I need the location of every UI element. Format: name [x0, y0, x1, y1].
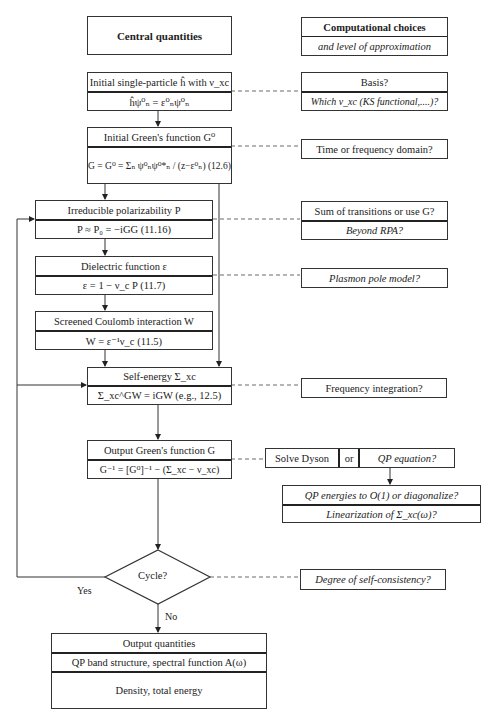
- frequency-integration-box: Frequency integration?: [301, 378, 447, 398]
- polarizability-equation: P ≈ P₀ = −iGG (11.16): [36, 221, 212, 238]
- polarizability-box: Irreducible polarizability P P ≈ P₀ = −i…: [35, 200, 213, 239]
- cycle-decision-label: Cycle?: [138, 570, 167, 581]
- central-quantities-label: Central quantities: [88, 17, 231, 54]
- yes-label: Yes: [77, 585, 92, 596]
- self-consistency-box: Degree of self-consistency?: [300, 569, 446, 590]
- time-frequency-box: Time or frequency domain?: [301, 139, 448, 159]
- or-label: or: [340, 449, 358, 467]
- solve-dyson-option: Solve Dyson: [266, 449, 338, 467]
- initial-greens-function-box: Initial Green's function G⁰ G = G⁰ = Σₙ …: [87, 127, 232, 184]
- self-energy-box: Self-energy Σ_xc Σ_xc^GW = iGW (e.g., 12…: [87, 367, 232, 405]
- screened-coulomb-box: Screened Coulomb interaction W W = ε⁻¹ν_…: [35, 311, 213, 350]
- output-greens-function-box: Output Green's function G G⁻¹ = [G⁰]⁻¹ −…: [87, 440, 232, 479]
- output-greens-equation: G⁻¹ = [G⁰]⁻¹ − (Σ_xc − ν_xc): [88, 461, 231, 478]
- band-structure-label: QP band structure, spectral function A(ω…: [52, 654, 266, 671]
- dielectric-function-box: Dielectric function ε ε = 1 − ν_c P (11.…: [35, 256, 213, 295]
- beyond-rpa-question: Beyond RPA?: [302, 222, 447, 239]
- self-energy-title: Self-energy Σ_xc: [88, 368, 231, 385]
- polarizability-title: Irreducible polarizability P: [36, 201, 212, 219]
- qp-energies-box: QP energies to O(1) or diagonalize? Line…: [282, 485, 481, 523]
- central-quantities-header: Central quantities: [87, 16, 232, 55]
- no-label: No: [165, 611, 177, 622]
- initial-greens-title: Initial Green's function G⁰: [88, 128, 231, 146]
- self-energy-equation: Σ_xc^GW = iGW (e.g., 12.5): [88, 387, 231, 404]
- dielectric-equation: ε = 1 − ν_c P (11.7): [36, 277, 212, 294]
- qp-equation-option: QP equation?: [360, 449, 454, 467]
- time-frequency-question: Time or frequency domain?: [302, 140, 447, 158]
- qp-energies-question: QP energies to O(1) or diagonalize?: [283, 486, 480, 504]
- plasmon-pole-box: Plasmon pole model?: [301, 268, 448, 288]
- approximation-level-label: and level of approximation: [302, 37, 447, 55]
- screened-coulomb-equation: W = ε⁻¹ν_c (11.5): [36, 332, 212, 349]
- output-quantities-box: Output quantities QP band structure, spe…: [51, 633, 267, 709]
- screened-coulomb-title: Screened Coulomb interaction W: [36, 312, 212, 330]
- output-quantities-title: Output quantities: [52, 634, 266, 652]
- computational-choices-label: Computational choices: [302, 18, 447, 36]
- self-consistency-question: Degree of self-consistency?: [301, 570, 445, 589]
- initial-greens-equation: G = G⁰ = Σₙ ψ⁰ₙψ⁰*ₙ / (z−ε⁰ₙ) (12.6): [88, 148, 231, 183]
- initial-hamiltonian-equation: ĥψ⁰ₙ = ε⁰ₙψ⁰ₙ: [88, 93, 231, 110]
- computational-choices-header: Computational choices and level of appro…: [301, 17, 448, 56]
- initial-hamiltonian-box: Initial single-particle ĥ with ν_xc ĥψ⁰ₙ…: [87, 72, 232, 111]
- vxc-question: Which v_xc (KS functional,....)?: [302, 93, 447, 110]
- transitions-choice-box: Sum of transitions or use G? Beyond RPA?: [301, 201, 448, 240]
- dielectric-title: Dielectric function ε: [36, 257, 212, 275]
- plasmon-pole-question: Plasmon pole model?: [302, 269, 447, 287]
- initial-hamiltonian-title: Initial single-particle ĥ with ν_xc: [88, 73, 231, 91]
- transitions-question: Sum of transitions or use G?: [302, 202, 447, 220]
- frequency-integration-question: Frequency integration?: [302, 379, 446, 397]
- basis-choice-box: Basis? Which v_xc (KS functional,....)?: [301, 72, 448, 111]
- dyson-choice-box: Solve Dyson or QP equation?: [265, 448, 455, 468]
- linearization-question: Linearization of Σ_xc(ω)?: [283, 506, 480, 522]
- basis-question: Basis?: [302, 73, 447, 91]
- density-energy-label: Density, total energy: [52, 673, 266, 708]
- output-greens-title: Output Green's function G: [88, 441, 231, 459]
